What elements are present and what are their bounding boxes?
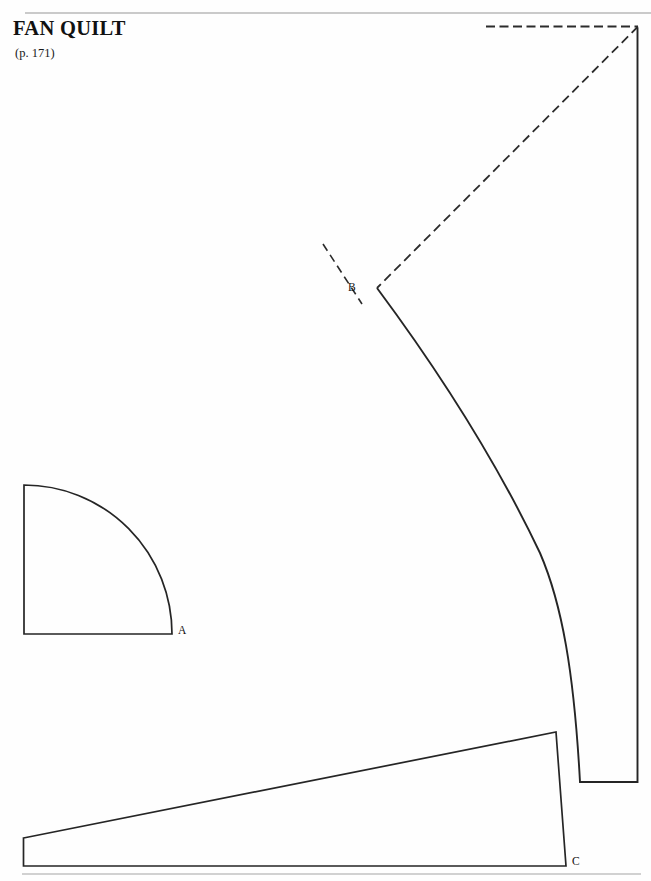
title-block: FAN QUILT (p. 171): [13, 18, 126, 61]
point-label-b: B: [348, 281, 356, 293]
page-reference: (p. 171): [15, 46, 126, 61]
pattern-sheet-page: FAN QUILT (p. 171) A B C: [0, 0, 651, 881]
point-label-c: C: [572, 855, 580, 867]
page-title: FAN QUILT: [13, 18, 126, 40]
fan-blade-piece: [377, 28, 638, 782]
pattern-drawing: [0, 0, 651, 881]
border-wedge-piece: [24, 732, 567, 866]
seam-tick-dashed: [323, 244, 362, 304]
point-label-a: A: [178, 624, 186, 636]
quarter-circle-piece: [24, 485, 172, 634]
diagonal-dashed-guide: [377, 27, 638, 289]
